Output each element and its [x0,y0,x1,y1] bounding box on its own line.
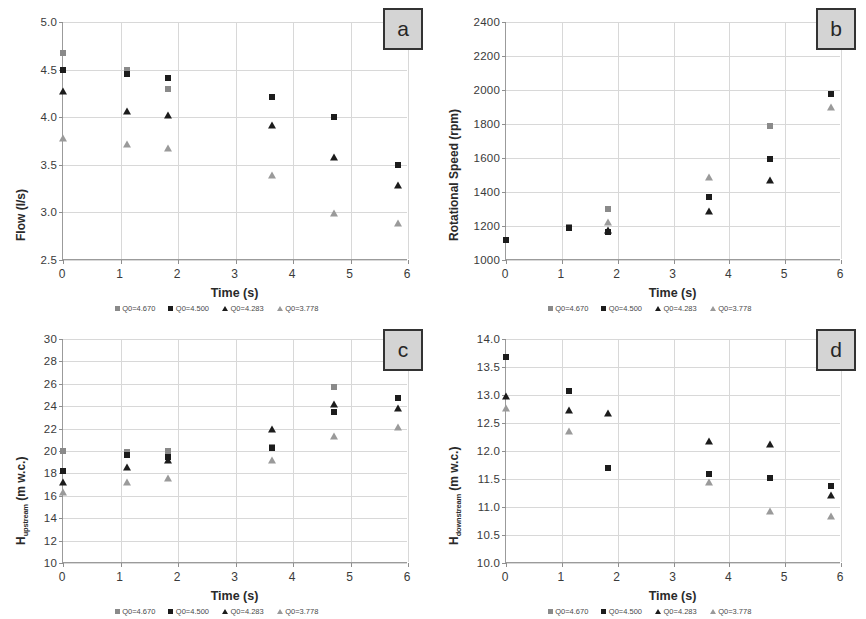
y-axis-tick-label: 1200 [474,220,500,232]
x-axis-tick [293,260,294,264]
gridline-vertical [674,339,675,562]
x-axis-tick [408,260,409,264]
data-point [767,123,773,129]
triangle-marker-icon [705,173,713,180]
triangle-marker-icon [164,474,172,481]
data-point [60,448,66,454]
x-axis-title-a: Time (s) [62,286,407,300]
legend-label: Q0=4.283 [664,607,697,616]
data-point [827,512,835,519]
data-point [59,489,67,496]
x-axis-tick-label: 3 [669,267,676,281]
x-axis-tick-label: 3 [231,267,238,281]
y-axis-tick-label: 3.5 [40,159,57,171]
legend-label: Q0=4.670 [555,304,588,313]
square-marker-icon [548,609,553,614]
y-axis-tick [502,56,506,57]
gridline-vertical [121,22,122,259]
x-axis-tick [236,260,237,264]
data-point [123,463,131,470]
data-point [827,492,835,499]
data-point [164,474,172,481]
y-axis-tick [59,361,63,362]
square-marker-icon [828,483,834,489]
legend-item: Q0=4.283 [222,304,264,313]
legend-label: Q0=4.670 [122,304,155,313]
data-point [269,94,275,100]
x-axis-tick [674,260,675,264]
data-point [395,162,401,168]
y-axis-tick-label: 22 [44,423,57,435]
triangle-marker-icon [123,108,131,115]
legend-label: Q0=4.283 [664,304,697,313]
triangle-marker-icon [268,172,276,179]
y-axis-tick-label: 20 [44,445,57,457]
gridline-vertical [408,339,409,562]
legend-item: Q0=4.670 [115,607,156,616]
x-axis-tick-labels-d: 0123456 [505,570,840,586]
y-axis-tick-label: 12.5 [477,417,500,429]
data-point [60,50,66,56]
x-axis-tick [729,260,730,264]
data-point [604,409,612,416]
triangle-marker-icon [330,154,338,161]
data-point [123,108,131,115]
y-axis-tick-label: 1000 [474,254,500,266]
y-axis-title-a: Flow (l/s) [14,189,28,241]
x-axis-tick-label: 1 [557,570,564,584]
figure-four-panel-scatter: 2.53.03.54.04.55.00123456Time (s)Flow (l… [0,0,866,619]
y-axis-tick-label: 4.5 [40,64,57,76]
triangle-marker-icon [710,609,716,614]
data-point [60,468,66,474]
gridline-vertical [618,22,619,259]
square-marker-icon [60,468,66,474]
data-point [502,404,510,411]
square-marker-icon [60,50,66,56]
legend-item: Q0=4.500 [168,304,209,313]
data-point [705,438,713,445]
y-axis-tick-label: 30 [44,333,57,345]
y-axis-tick-label: 14.0 [477,333,500,345]
data-point [60,67,66,73]
triangle-marker-icon [277,306,283,311]
data-point [268,425,276,432]
triangle-marker-icon [164,456,172,463]
triangle-marker-icon [604,409,612,416]
square-marker-icon [269,94,275,100]
x-axis-tick [785,563,786,567]
triangle-marker-icon [123,479,131,486]
square-marker-icon [395,395,401,401]
x-axis-title-c: Time (s) [62,589,407,603]
gridline-vertical [729,339,730,562]
triangle-marker-icon [277,609,283,614]
legend-item: Q0=4.500 [601,607,642,616]
triangle-marker-icon [502,392,510,399]
data-point [566,388,572,394]
gridline-vertical [729,22,730,259]
data-point [566,225,572,231]
data-point [268,172,276,179]
data-point [605,465,611,471]
y-axis-tick-label: 4.0 [40,111,57,123]
gridline-vertical [351,339,352,562]
x-axis-tick [506,563,507,567]
x-axis-tick-label: 5 [346,267,353,281]
y-axis-tick-label: 28 [44,355,57,367]
y-axis-tick [502,90,506,91]
data-point [565,407,573,414]
y-axis-tick [502,535,506,536]
x-axis-tick [121,563,122,567]
square-marker-icon [115,609,120,614]
x-axis-tick-label: 4 [289,570,296,584]
square-marker-icon [60,67,66,73]
data-point [59,479,67,486]
plot-area-c [62,339,407,563]
x-axis-tick-label: 2 [174,267,181,281]
y-axis-title-d: Hdownstream (m w.c.) [447,447,463,545]
data-point [124,452,130,458]
data-point [269,445,275,451]
data-point [604,218,612,225]
y-axis-tick-label: 11.5 [478,473,500,485]
triangle-marker-icon [123,140,131,147]
data-point [59,135,67,142]
